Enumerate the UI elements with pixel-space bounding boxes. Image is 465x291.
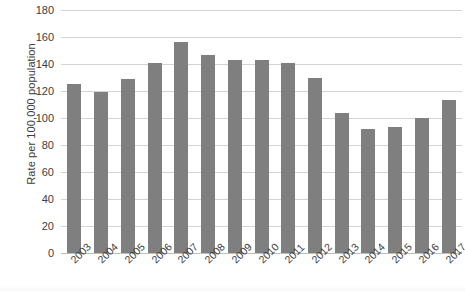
plot-area bbox=[61, 10, 462, 253]
y-axis-tick-label: 120 bbox=[14, 85, 54, 97]
x-axis-tick-labels: 2003200420052006200720082009201020112012… bbox=[61, 253, 462, 291]
y-axis-tick-label: 100 bbox=[14, 112, 54, 124]
y-axis-tick-label: 180 bbox=[14, 4, 54, 16]
y-axis-tick-label: 60 bbox=[14, 166, 54, 178]
bar bbox=[201, 55, 215, 253]
bar bbox=[67, 84, 81, 253]
gridline bbox=[61, 37, 462, 38]
y-axis-tick-label: 0 bbox=[14, 247, 54, 259]
y-axis-tick-label: 140 bbox=[14, 58, 54, 70]
bar bbox=[148, 63, 162, 253]
bar bbox=[174, 42, 188, 253]
y-axis-tick-label: 80 bbox=[14, 139, 54, 151]
bar bbox=[255, 60, 269, 253]
gridline bbox=[61, 10, 462, 11]
y-axis-tick-label: 160 bbox=[14, 31, 54, 43]
bar bbox=[228, 60, 242, 253]
bar bbox=[281, 63, 295, 253]
y-axis-tick-label: 20 bbox=[14, 220, 54, 232]
y-axis-tick-label: 40 bbox=[14, 193, 54, 205]
bar bbox=[121, 79, 135, 253]
bar bbox=[308, 78, 322, 254]
bar-chart: Rate per 100,000 population 180160140120… bbox=[0, 0, 465, 291]
